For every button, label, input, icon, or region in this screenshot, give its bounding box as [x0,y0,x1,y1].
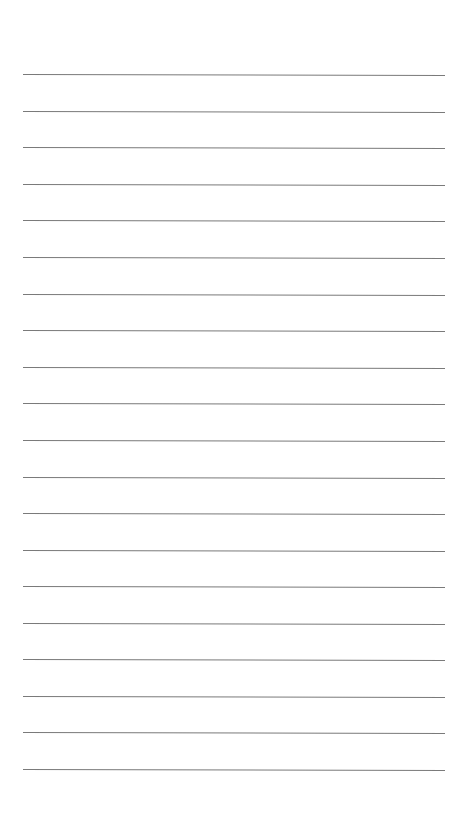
ruled-line [23,220,445,222]
ruled-line [23,477,445,479]
ruled-line [23,440,445,442]
ruled-line [23,74,445,76]
ruled-line [23,623,445,625]
ruled-line [23,586,445,588]
ruled-line [23,696,445,698]
ruled-line [23,403,445,405]
ruled-line [23,294,445,296]
ruled-line [23,513,445,515]
ruled-line [23,147,445,149]
ruled-line [23,659,445,661]
ruled-line [23,184,445,186]
ruled-line [23,111,445,113]
ruled-line [23,550,445,552]
ruled-line [23,769,445,771]
ruled-line [23,257,445,259]
ruled-page [0,0,463,836]
ruled-line [23,330,445,332]
ruled-line [23,367,445,369]
ruled-line [23,732,445,734]
